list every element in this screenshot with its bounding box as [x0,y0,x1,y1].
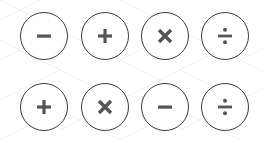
minus-button[interactable]: − [20,12,68,60]
times-icon [94,96,116,118]
minus-button[interactable]: − [141,83,189,131]
divide-icon [214,96,236,118]
minus-icon [33,25,55,47]
plus-button[interactable]: + [81,12,129,60]
divide-icon [214,25,236,47]
divide-button[interactable]: ÷ [201,12,249,60]
plus-button[interactable]: + [20,83,68,131]
minus-icon [154,96,176,118]
operator-row-2: + × − ÷ [0,83,263,135]
plus-icon [94,25,116,47]
times-icon [154,25,176,47]
times-button[interactable]: × [81,83,129,131]
divide-button[interactable]: ÷ [201,83,249,131]
operator-row-1: − + × ÷ [0,12,263,64]
times-button[interactable]: × [141,12,189,60]
plus-icon [33,96,55,118]
